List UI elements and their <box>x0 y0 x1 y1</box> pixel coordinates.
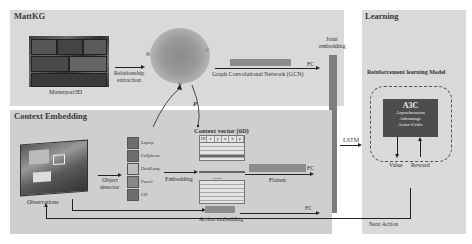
value-arrow-line <box>397 137 398 155</box>
context-vector-table-bottom <box>199 180 245 204</box>
next-action-arrowhead <box>44 203 48 207</box>
next-action-down-line <box>410 188 411 218</box>
mattkg-title: MattKG <box>14 11 45 21</box>
gcn-fc-label: FC <box>307 61 314 68</box>
relationship-arrowhead <box>141 65 145 69</box>
context-vector-title: Context vector (6D) <box>194 127 249 134</box>
a3c-box: A3C Asynchronous Advantage Actor-Critic <box>383 99 438 137</box>
a3c-line-3: Actor-Critic <box>383 122 438 128</box>
next-action-label: Next Action <box>369 221 398 228</box>
next-action-line <box>46 218 411 219</box>
object-detector-label-1: Object <box>102 177 118 184</box>
object-detector-arrow <box>98 175 118 176</box>
flatten-arrow <box>245 174 310 175</box>
joint-embedding-label-2: embedding <box>319 43 346 50</box>
relationship-arrow <box>115 67 141 68</box>
cd-icon <box>127 189 139 201</box>
reward-arrowhead <box>418 137 422 141</box>
object-label: Laptop <box>141 140 154 145</box>
desklamp-icon <box>127 163 139 175</box>
observation-down-line <box>72 199 73 210</box>
relationship-label-2: extraction <box>117 77 141 84</box>
object-detector-label-2: detector <box>100 184 119 191</box>
flatten-arrowhead <box>310 172 314 176</box>
flatten-bar <box>249 164 306 172</box>
context-vector-stripe <box>199 171 245 173</box>
joint-embedding-label-1: Joint <box>326 36 338 43</box>
observations-label: Observations <box>27 199 59 206</box>
relationship-label-1: Relationship <box>114 70 144 77</box>
graph-node <box>146 52 150 56</box>
pencil-icon <box>127 176 139 188</box>
flatten-label: Flatten <box>269 177 286 184</box>
object-detector-arrowhead <box>118 173 122 177</box>
gcn-label: Graph Convolutional Network (GCN) <box>212 71 304 78</box>
a3c-title: A3C <box>383 101 438 110</box>
laptop-icon <box>127 137 139 149</box>
embedding-arrowhead <box>194 170 198 174</box>
knowledge-graph-cloud <box>150 28 210 84</box>
embedding-label: Embedding <box>165 176 193 183</box>
context-vector-header: ID x y w h p <box>200 136 244 143</box>
context-vector-table-top: ID x y w h p <box>199 135 245 161</box>
flatten-fc-label: FC <box>307 165 314 172</box>
context-embedding-title: Context Embedding <box>14 111 87 121</box>
object-label: Pencil <box>141 179 153 184</box>
object-label: Cellphone <box>141 153 160 158</box>
lstm-label: LSTM <box>343 137 359 144</box>
action-fc-label: FC <box>305 205 312 212</box>
reward-label: Reward <box>411 162 430 169</box>
action-fc-arrow <box>240 213 316 214</box>
matterport3d-label: Matterport3D <box>49 89 82 96</box>
gcn-arrow <box>215 68 316 69</box>
value-arrowhead <box>395 154 399 158</box>
cellphone-icon <box>127 150 139 162</box>
observation-to-action-line <box>72 210 202 211</box>
learning-title: Learning <box>365 11 399 21</box>
object-label: DeskLamp <box>141 166 160 171</box>
value-label: Value <box>389 162 403 169</box>
graph-node <box>205 48 209 52</box>
rl-model-title: Reinforcement learning Model <box>367 69 446 76</box>
embedding-arrow <box>164 172 194 173</box>
gcn-bar <box>230 59 291 66</box>
kg-link-arrows <box>140 80 220 130</box>
matterport3d-image <box>29 36 109 87</box>
object-label: CD <box>141 192 147 197</box>
next-action-up-line <box>46 206 47 218</box>
lstm-arrow <box>340 145 358 146</box>
action-fc-arrowhead <box>316 211 320 215</box>
action-embedding-bar <box>205 206 235 213</box>
observations-image <box>20 140 88 197</box>
gcn-arrowhead <box>316 66 320 70</box>
reward-arrow-line <box>420 141 421 157</box>
